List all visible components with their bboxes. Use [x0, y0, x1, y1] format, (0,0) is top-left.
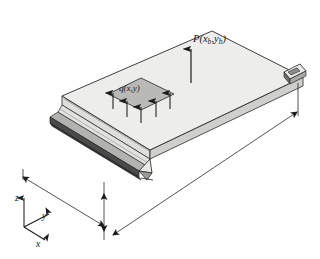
- axis-label-y: y: [42, 212, 46, 222]
- point-load-label: P(xb,yb): [193, 34, 226, 45]
- x-axis: [24, 227, 45, 240]
- point-load-label-close-paren: ): [222, 33, 226, 44]
- axis-label-z: z: [15, 194, 19, 204]
- plate-body: [50, 31, 306, 180]
- distributed-load-label: q(x,y): [119, 84, 140, 93]
- width-dimension-line: [23, 177, 104, 226]
- plate-diagram-figure: P(xb,yb) q(x,y) z y x: [0, 0, 320, 259]
- plate-diagram-svg: [0, 0, 320, 259]
- axis-label-x: x: [36, 240, 40, 250]
